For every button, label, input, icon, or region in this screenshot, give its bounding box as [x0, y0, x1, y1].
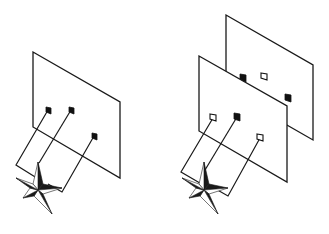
right-diagram [181, 15, 313, 214]
left-diagram [16, 52, 120, 214]
star-source-icon [182, 162, 228, 214]
single-screen-panel [33, 52, 120, 178]
diagram-canvas [0, 0, 329, 234]
